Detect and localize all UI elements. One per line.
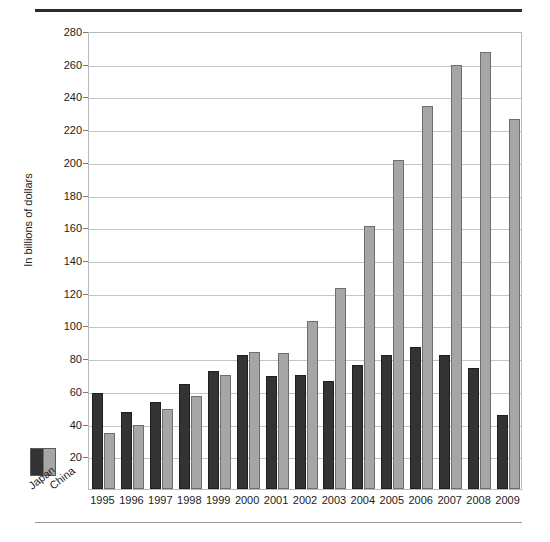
y-axis-tick-label: 80	[70, 354, 82, 365]
bar-japan-2004	[352, 365, 363, 489]
bar-china-1999	[220, 375, 231, 490]
x-axis-tick-label: 2001	[264, 494, 288, 507]
bottom-divider-rule	[35, 522, 522, 523]
bar-japan-2007	[439, 355, 450, 489]
bar-china-1998	[191, 396, 202, 489]
y-axis-tick-label: 40	[70, 419, 82, 430]
x-axis-tick-label: 1999	[206, 494, 230, 507]
x-axis-tick-label: 1996	[119, 494, 143, 507]
bar-china-1997	[162, 409, 173, 489]
chart-page: 28026024022020018016014012010080604020 I…	[0, 0, 550, 542]
bar-china-2003	[335, 288, 346, 489]
y-axis-tick-label: 260	[64, 59, 82, 70]
y-axis-tick-label: 280	[64, 27, 82, 38]
y-axis-tick-label: 220	[64, 125, 82, 136]
bar-china-2007	[451, 65, 462, 489]
x-axis-tick-label: 2008	[466, 494, 490, 507]
x-axis-tick-label: 2009	[495, 494, 519, 507]
y-axis-tick-label: 140	[64, 256, 82, 267]
bar-japan-2006	[410, 347, 421, 489]
x-axis-tick-label: 1997	[148, 494, 172, 507]
bar-china-2006	[422, 106, 433, 489]
bar-china-2002	[307, 321, 318, 489]
x-axis-tick-label: 1998	[177, 494, 201, 507]
x-axis-tick-label: 2006	[408, 494, 432, 507]
bar-japan-1999	[208, 371, 219, 489]
y-axis-tick-label: 100	[64, 321, 82, 332]
x-axis-tick-label: 2004	[351, 494, 375, 507]
bar-japan-2001	[266, 376, 277, 489]
bar-japan-2003	[323, 381, 334, 489]
bar-series-container	[89, 33, 521, 489]
bar-china-2005	[393, 160, 404, 489]
top-divider-rule	[35, 9, 522, 12]
bar-japan-2002	[295, 375, 306, 490]
y-axis-tick-label: 160	[64, 223, 82, 234]
x-axis-tick-label: 2002	[293, 494, 317, 507]
y-axis: 28026024022020018016014012010080604020	[52, 32, 88, 490]
bar-japan-1997	[150, 402, 161, 489]
x-axis-tick-label: 2007	[437, 494, 461, 507]
x-axis-tick-label: 2003	[322, 494, 346, 507]
bar-japan-1998	[179, 384, 190, 489]
x-axis-tick-label: 1995	[90, 494, 114, 507]
y-axis-title: In billions of dollars	[22, 160, 34, 280]
bar-china-2008	[480, 52, 491, 489]
bar-china-2009	[509, 119, 520, 489]
x-axis: 1995199619971998199920002001200220032004…	[88, 494, 522, 512]
bar-japan-2009	[497, 415, 508, 489]
bar-china-1996	[133, 425, 144, 489]
bar-china-2000	[249, 352, 260, 489]
y-axis-tick-label: 240	[64, 92, 82, 103]
bar-japan-1996	[121, 412, 132, 489]
y-axis-tick-label: 60	[70, 386, 82, 397]
bar-japan-1995	[92, 393, 103, 490]
plot-area	[88, 32, 522, 490]
bar-japan-2008	[468, 368, 479, 489]
y-axis-tick-label: 180	[64, 190, 82, 201]
bar-china-2004	[364, 226, 375, 489]
y-axis-tick-label: 120	[64, 288, 82, 299]
y-axis-tick-label: 200	[64, 157, 82, 168]
bar-china-1995	[104, 433, 115, 489]
x-axis-tick-label: 2005	[380, 494, 404, 507]
bar-japan-2005	[381, 355, 392, 489]
bar-japan-2000	[237, 355, 248, 489]
x-axis-tick-label: 2000	[235, 494, 259, 507]
chart-legend: Japan China	[26, 448, 86, 518]
bar-china-2001	[278, 353, 289, 489]
